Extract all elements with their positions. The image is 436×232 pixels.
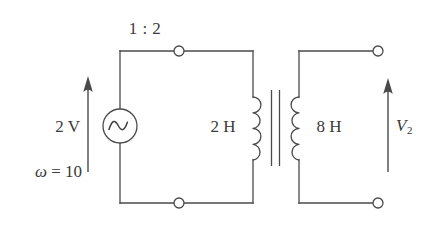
primary-inductance-label: 2 H: [196, 118, 250, 135]
output-voltage-subscript: 2: [407, 124, 413, 136]
transformer-secondary-coil: [291, 97, 299, 160]
secondary-top-terminal: [373, 46, 383, 56]
omega-label: ω = 10: [8, 163, 82, 180]
ac-voltage-source: [103, 109, 137, 143]
output-voltage-arrow: [383, 78, 393, 172]
omega-value: = 10: [47, 162, 82, 181]
omega-symbol: ω: [35, 162, 47, 181]
secondary-coil-windings: [291, 97, 299, 160]
output-voltage-symbol: V: [396, 116, 406, 135]
primary-bottom-terminal: [174, 198, 184, 208]
secondary-inductance-label: 8 H: [303, 118, 355, 135]
secondary-bottom-terminal: [373, 198, 383, 208]
transformer-primary-coil: [253, 97, 261, 160]
primary-top-terminal: [174, 46, 184, 56]
output-arrow-head: [383, 78, 393, 94]
input-voltage-arrow: [83, 76, 93, 172]
source-circle: [103, 109, 137, 143]
turns-ratio-text: 1 : 2: [129, 19, 162, 38]
circuit-diagram: 1 : 2 2 V ω = 10 2 H 8 H V2: [0, 0, 436, 232]
input-arrow-head: [83, 76, 93, 92]
output-voltage-label: V2: [396, 117, 412, 134]
transformer-core: [272, 90, 280, 166]
turns-ratio-label: 1 : 2: [0, 20, 436, 37]
source-voltage-label: 2 V: [22, 118, 80, 135]
primary-coil-windings: [253, 97, 261, 160]
